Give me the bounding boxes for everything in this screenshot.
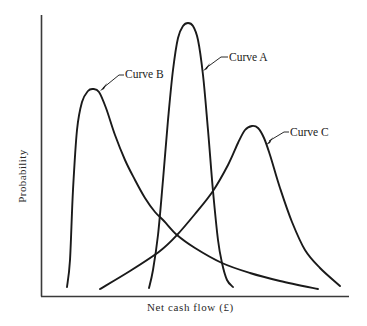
curve-c-line	[100, 126, 340, 289]
curve-c-leader	[266, 132, 289, 145]
curve-c-label: Curve C	[290, 127, 329, 139]
curve-a-line	[149, 23, 233, 288]
curve-b-leader	[100, 75, 124, 91]
chart-plot-area	[0, 0, 367, 326]
curve-a-label: Curve A	[229, 52, 268, 64]
arrow-icon	[100, 83, 107, 91]
curve-b-label: Curve B	[125, 69, 164, 81]
curve-a-leader	[203, 57, 228, 71]
x-axis-label: Net cash flow (£)	[147, 302, 234, 313]
y-axis-label: Probability	[17, 149, 28, 202]
arrow-icon	[203, 63, 210, 71]
